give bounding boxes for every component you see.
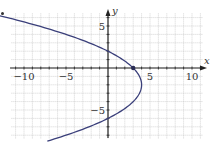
- x-tick-label: 5: [147, 71, 153, 82]
- x-intercept-point: [131, 66, 135, 70]
- y-axis-label: y: [111, 5, 118, 16]
- x-axis-label: x: [204, 55, 210, 66]
- y-axis-arrow-icon: [106, 9, 111, 16]
- parabola-chart: −10−55105−5xy: [0, 0, 213, 145]
- y-tick-label: −5: [90, 105, 105, 116]
- x-tick-label: −10: [13, 71, 34, 82]
- y-tick-label: 5: [99, 21, 105, 32]
- x-axis-arrow-icon: [200, 66, 207, 71]
- x-tick-label: 10: [186, 71, 199, 82]
- x-tick-label: −5: [59, 71, 74, 82]
